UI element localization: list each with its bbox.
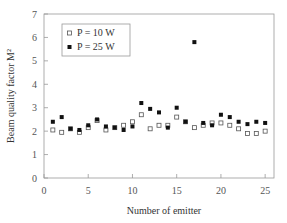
data-point-25w: [95, 117, 99, 121]
data-point-25w: [77, 128, 81, 132]
x-tick-label: 10: [127, 185, 137, 196]
data-point-25w: [219, 113, 223, 117]
data-point-10w: [254, 131, 258, 135]
data-point-25w: [113, 126, 117, 130]
hollow-square-marker-icon: [68, 31, 72, 35]
data-point-10w: [219, 121, 223, 125]
x-axis-label: Number of emitter: [127, 205, 202, 216]
data-point-10w: [130, 120, 134, 124]
x-tick-label: 20: [216, 185, 226, 196]
data-point-10w: [228, 123, 232, 127]
y-axis-label: Beam quality factor M²: [5, 49, 16, 143]
legend: P = 10 W P = 25 W: [62, 24, 130, 56]
x-tick-label: 15: [172, 185, 182, 196]
legend-label-10w: P = 10 W: [77, 27, 115, 38]
data-point-25w: [166, 126, 170, 130]
data-point-25w: [122, 128, 126, 132]
y-tick-label: 4: [32, 79, 37, 90]
data-point-25w: [51, 120, 55, 124]
data-point-25w: [237, 120, 241, 124]
data-point-25w: [60, 115, 64, 119]
data-point-25w: [175, 106, 179, 110]
data-point-10w: [157, 123, 161, 127]
data-point-10w: [60, 130, 64, 134]
y-tick-label: 7: [32, 9, 37, 20]
data-point-25w: [69, 127, 73, 131]
y-axis-ticks: 01234567: [32, 9, 48, 184]
data-point-25w: [245, 122, 249, 126]
filled-square-marker-icon: [68, 45, 72, 49]
legend-label-25w: P = 25 W: [77, 41, 115, 52]
data-point-10w: [192, 126, 196, 130]
x-tick-label: 0: [42, 185, 47, 196]
y-tick-label: 2: [32, 126, 37, 137]
data-point-10w: [104, 128, 108, 132]
data-point-10w: [148, 127, 152, 131]
data-point-25w: [210, 123, 214, 127]
data-point-25w: [130, 124, 134, 128]
x-axis-ticks: 0510152025: [42, 174, 271, 196]
data-point-10w: [122, 123, 126, 127]
data-point-25w: [254, 120, 258, 124]
data-point-25w: [184, 120, 188, 124]
data-point-25w: [201, 121, 205, 125]
x-tick-label: 25: [260, 185, 270, 196]
data-point-25w: [228, 115, 232, 119]
y-tick-label: 5: [32, 55, 37, 66]
data-point-25w: [157, 110, 161, 114]
data-point-25w: [139, 101, 143, 105]
data-point-10w: [175, 115, 179, 119]
data-point-10w: [237, 127, 241, 131]
y-tick-label: 0: [32, 173, 37, 184]
data-point-25w: [263, 121, 267, 125]
y-tick-label: 6: [32, 32, 37, 43]
data-point-10w: [245, 131, 249, 135]
y-tick-label: 3: [32, 102, 37, 113]
data-point-25w: [148, 107, 152, 111]
data-point-25w: [192, 40, 196, 44]
data-point-25w: [86, 123, 90, 127]
x-tick-label: 5: [86, 185, 91, 196]
data-point-10w: [139, 113, 143, 117]
data-point-10w: [263, 129, 267, 133]
data-point-25w: [104, 124, 108, 128]
data-point-10w: [51, 128, 55, 132]
scatter-chart: 01234567 0510152025 P = 10 W P = 25 W Nu…: [0, 0, 287, 223]
y-tick-label: 1: [32, 149, 37, 160]
